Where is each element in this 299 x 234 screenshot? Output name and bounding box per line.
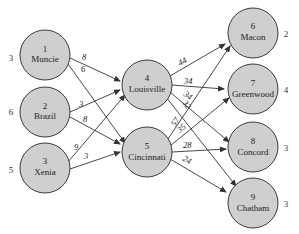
- edge-label-2-4: 3: [78, 99, 83, 109]
- svg-text:Brazil: Brazil: [34, 111, 56, 121]
- svg-text:2: 2: [43, 101, 48, 111]
- edge-label-5-9: 24: [181, 153, 194, 166]
- svg-text:Chatham: Chatham: [237, 203, 270, 213]
- node-xenia: 3 Xenia: [20, 143, 70, 193]
- edge-label-3-5: 3: [83, 151, 88, 161]
- edge-4-9: [166, 97, 236, 186]
- svg-text:5: 5: [145, 141, 150, 151]
- edge-label-5-8: 28: [183, 140, 192, 150]
- svg-text:Concord: Concord: [238, 147, 269, 157]
- supply-brazil: 6: [9, 107, 14, 117]
- svg-text:1: 1: [43, 44, 48, 54]
- edge-4-7: [172, 85, 224, 89]
- svg-text:Xenia: Xenia: [34, 167, 56, 177]
- edge-4-8: [170, 92, 229, 142]
- demand-macon: 2: [284, 29, 289, 39]
- supply-muncie: 3: [9, 53, 14, 63]
- edge-5-9: [170, 159, 226, 192]
- transshipment-network-diagram: 8 6 3 8 9 3 44 34 34 32 57 35 28 24 1 Mu…: [0, 0, 299, 234]
- svg-text:6: 6: [251, 21, 256, 31]
- edge-3-5: [70, 152, 120, 169]
- svg-text:3: 3: [43, 156, 48, 166]
- svg-text:Louisville: Louisville: [129, 84, 166, 94]
- svg-text:Muncie: Muncie: [31, 54, 59, 64]
- demand-chatham: 3: [284, 199, 289, 209]
- node-cincinnati: 5 Cincinnati: [122, 127, 172, 177]
- node-macon: 6 Macon: [228, 8, 278, 58]
- node-muncie: 1 Muncie: [20, 30, 70, 80]
- svg-text:8: 8: [251, 136, 256, 146]
- svg-text:Greenwood: Greenwood: [232, 89, 274, 99]
- supply-xenia: 5: [9, 165, 14, 175]
- edge-5-8: [172, 149, 226, 152]
- node-brazil: 2 Brazil: [20, 87, 70, 137]
- edge-label-1-4: 8: [82, 52, 87, 62]
- edge-label-4-9: 32: [180, 97, 194, 111]
- svg-text:Cincinnati: Cincinnati: [128, 152, 166, 162]
- svg-text:7: 7: [251, 78, 256, 88]
- edge-2-4: [70, 90, 120, 112]
- edge-label-4-7: 34: [183, 76, 193, 86]
- node-concord: 8 Concord: [228, 122, 278, 172]
- demand-greenwood: 4: [284, 85, 289, 95]
- svg-text:Macon: Macon: [241, 32, 266, 42]
- node-chatham: 9 Chatham: [228, 178, 278, 228]
- svg-text:4: 4: [145, 73, 150, 83]
- svg-text:9: 9: [251, 192, 256, 202]
- node-louisville: 4 Louisville: [122, 60, 172, 110]
- edge-label-2-5: 8: [83, 114, 88, 124]
- node-greenwood: 7 Greenwood: [228, 64, 278, 114]
- demand-concord: 3: [284, 143, 289, 153]
